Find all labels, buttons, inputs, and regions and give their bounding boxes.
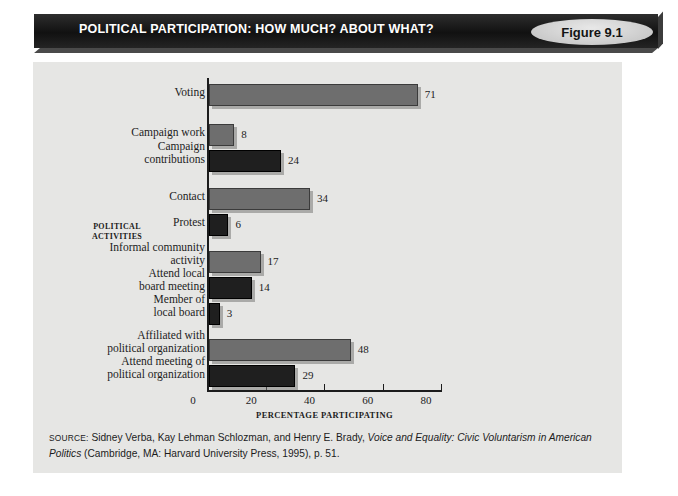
bar-category-label: Attend meeting ofpolitical organization (5, 355, 205, 381)
source-publisher: (Cambridge, MA: Harvard University Press… (81, 448, 339, 459)
bar-category-label: Voting (5, 86, 205, 99)
source-authors: Sidney Verba, Kay Lehman Schlozman, and … (89, 432, 368, 443)
bar-category-label-line2: activity (171, 254, 206, 266)
bar-category-label-line2: contributions (144, 153, 205, 165)
bar-category-label-line1: Contact (169, 190, 205, 202)
figure-number-label: Figure 9.1 (561, 25, 622, 40)
bar-category-label-line1: Attend local (148, 267, 205, 279)
bar (209, 277, 252, 299)
y-axis-title-line2: ACTIVITIES (92, 232, 142, 241)
banner-bevel-bottom (34, 48, 658, 53)
x-axis-tick-label: 60 (353, 394, 383, 406)
bar-value-label: 8 (241, 128, 247, 140)
x-axis-tick (383, 384, 384, 391)
bar-category-label-line1: Attend meeting of (121, 355, 205, 367)
chart-panel: 020406080 PERCENTAGE PARTICIPATING POLIT… (33, 62, 622, 423)
source-text: SOURCE: Sidney Verba, Kay Lehman Schlozm… (49, 430, 592, 462)
bar-category-label-line2: political organization (107, 342, 205, 354)
source-note: SOURCE: Sidney Verba, Kay Lehman Schlozm… (33, 423, 622, 473)
bar-category-label: Affiliated withpolitical organization (5, 329, 205, 355)
source-prefix: SOURCE: (49, 433, 89, 443)
bar (209, 251, 261, 273)
bar-value-label: 48 (358, 343, 369, 355)
header-banner: POLITICAL PARTICIPATION: HOW MUCH? ABOUT… (34, 14, 658, 52)
bar-value-label: 34 (317, 192, 328, 204)
bar-category-label-line2: board meeting (139, 280, 205, 292)
bar (209, 188, 310, 210)
bar-value-label: 17 (268, 255, 279, 267)
x-axis-tick (441, 384, 442, 391)
bar-category-label: Member oflocal board (5, 293, 205, 319)
bar-category-label-line2: local board (154, 306, 205, 318)
bar-value-label: 3 (227, 307, 233, 319)
bar-category-label-line1: Affiliated with (137, 329, 205, 341)
bar (209, 303, 220, 325)
bar-category-label-line1: Informal community (110, 241, 206, 253)
bar-value-label: 71 (425, 88, 436, 100)
bar-category-label-line1: Protest (173, 216, 205, 228)
bar (209, 365, 295, 387)
x-axis-tick-label: 40 (294, 394, 324, 406)
bar-category-label-line1: Voting (175, 86, 205, 98)
bar-category-label: Informal communityactivity (5, 241, 205, 267)
bar-category-label: Campaign work (5, 126, 205, 139)
bar (209, 214, 228, 236)
x-axis-tick (324, 384, 325, 391)
x-axis-title: PERCENTAGE PARTICIPATING (207, 410, 442, 420)
bar (209, 84, 418, 106)
x-axis-tick-label: 80 (411, 394, 441, 406)
bar-category-label-line1: Member of (154, 293, 205, 305)
bar-category-label: Protest (5, 216, 205, 229)
x-axis-tick-label: 0 (178, 394, 208, 406)
plot-area: 020406080 PERCENTAGE PARTICIPATING POLIT… (33, 62, 622, 392)
bar (209, 339, 351, 361)
bar-value-label: 24 (288, 154, 299, 166)
figure-number-badge: Figure 9.1 (531, 19, 653, 45)
x-axis-tick-label: 20 (236, 394, 266, 406)
bar-category-label: Attend localboard meeting (5, 267, 205, 293)
bar-category-label: Contact (5, 190, 205, 203)
bar-category-label-line1: Campaign (158, 140, 205, 152)
bar (209, 150, 281, 172)
bar-category-label-line1: Campaign work (131, 126, 205, 138)
page-title: POLITICAL PARTICIPATION: HOW MUCH? ABOUT… (79, 22, 434, 36)
bar-category-label-line2: political organization (107, 368, 205, 380)
banner-bevel-right (658, 11, 663, 49)
bar-value-label: 14 (259, 281, 270, 293)
bar-value-label: 29 (302, 369, 313, 381)
bar (209, 124, 234, 146)
bar-value-label: 6 (235, 218, 241, 230)
bar-category-label: Campaigncontributions (5, 140, 205, 166)
